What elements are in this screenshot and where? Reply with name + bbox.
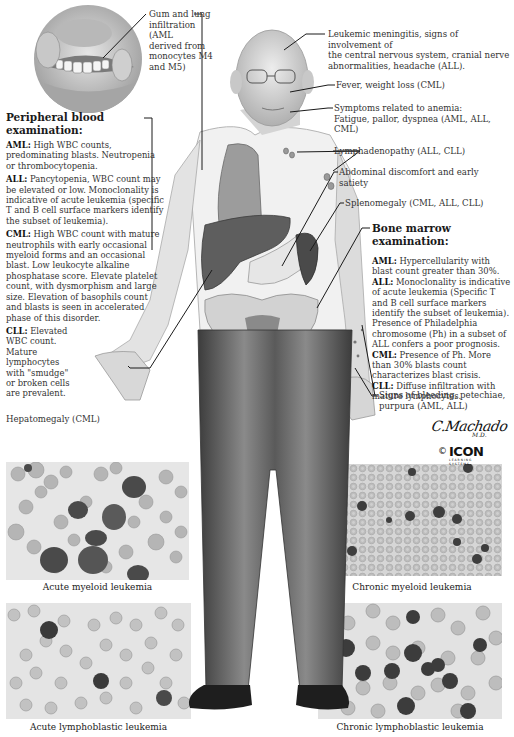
bone-marrow-title: Bone marrow examination: — [372, 222, 512, 248]
peripheral-blood-section: Peripheral blood examination: AML: High … — [6, 111, 166, 402]
peripheral-aml: AML: High WBC counts, predominating blas… — [6, 140, 166, 171]
text-cml: High WBC count with mature neutrophils w… — [6, 229, 159, 322]
label-bleeding: Signs of bleeding, petechiae, purpura (A… — [379, 390, 514, 411]
logo-block: ICON LEARNING SYSTEMS — [449, 446, 483, 466]
marrow-aml: AML: Hypercellularity with blast count g… — [372, 256, 512, 277]
tag-all: ALL: — [6, 174, 27, 184]
text-cll: Elevated WBC count. Mature lymphocytes w… — [6, 326, 70, 398]
label-lymphadenopathy: Lymphadenopathy (ALL, CLL) — [334, 146, 465, 157]
label-abdominal-discomfort: Abdominal discomfort and early satiety — [339, 167, 514, 188]
tag-cml: CML: — [6, 229, 31, 239]
logo-text: ICON — [449, 446, 483, 458]
label-line: purpura (AML, ALL) — [379, 401, 514, 412]
shoe-left — [189, 685, 252, 709]
peripheral-all: ALL: Pancytopenia, WBC count may be elev… — [6, 174, 166, 226]
peripheral-blood-title: Peripheral blood examination: — [6, 111, 166, 137]
signature-name: C.Machado — [431, 418, 509, 434]
label-fever: Fever, weight loss (CML) — [336, 80, 445, 91]
label-line: infiltration (AML — [149, 20, 221, 41]
text-all: Pancytopenia, WBC count may be elevated … — [6, 174, 164, 226]
label-line: Abdominal discomfort and early — [339, 167, 514, 178]
label-line: and M5) — [149, 62, 221, 73]
label-anemia: Symptoms related to anemia: Fatigue, pal… — [334, 103, 514, 135]
label-line: Gum and lung — [149, 9, 221, 20]
marrow-all: ALL: Monoclonality is indicative of acut… — [372, 277, 512, 350]
text-all: Monoclonality is indicative of acute leu… — [372, 277, 510, 349]
label-hepatomegaly: Hepatomegaly (CML) — [6, 414, 100, 425]
bone-marrow-section: Bone marrow examination: AML: Hypercellu… — [372, 222, 512, 405]
peripheral-cml: CML: High WBC count with mature neutroph… — [6, 229, 166, 323]
icon-logo: © ICON LEARNING SYSTEMS — [438, 446, 483, 466]
copyright-symbol: © — [438, 446, 447, 456]
label-line: derived from — [149, 41, 221, 52]
label-line: Fatigue, pallor, dyspnea (AML, ALL, — [334, 114, 514, 125]
tag-all: ALL: — [372, 277, 393, 287]
tag-aml: AML: — [6, 140, 31, 150]
shoe-right — [296, 685, 349, 709]
label-splenomegaly: Splenomegaly (CML, ALL, CLL) — [345, 198, 483, 209]
mouth-gum-inset — [34, 5, 142, 113]
label-line: Leukemic meningitis, signs of involvemen… — [328, 29, 514, 50]
artist-signature: C.Machado M.D. — [432, 418, 507, 438]
tag-cml: CML: — [372, 350, 397, 360]
peripheral-cll: CLL: Elevated WBC count. Mature lymphocy… — [6, 326, 76, 399]
label-line: Signs of bleeding, petechiae, — [379, 390, 514, 401]
logo-sub2: SYSTEMS — [449, 462, 483, 466]
mouth-image — [34, 5, 142, 113]
label-line: the central nervous system, cranial nerv… — [328, 50, 514, 61]
label-line: CML) — [334, 124, 514, 135]
label-line: Symptoms related to anemia: — [334, 103, 514, 114]
tag-cll: CLL: — [6, 326, 28, 336]
label-line: abnormalities, headache (ALL). — [328, 61, 514, 72]
label-leukemic-meningitis: Leukemic meningitis, signs of involvemen… — [328, 29, 514, 71]
label-gum-lung-infiltration: Gum and lung infiltration (AML derived f… — [149, 9, 221, 73]
tag-aml: AML: — [372, 256, 397, 266]
trousers — [198, 330, 352, 690]
label-line: satiety — [339, 178, 514, 189]
label-line: monocytes M4 — [149, 51, 221, 62]
marrow-cml: CML: Presence of Ph. More than 30% blast… — [372, 350, 512, 381]
